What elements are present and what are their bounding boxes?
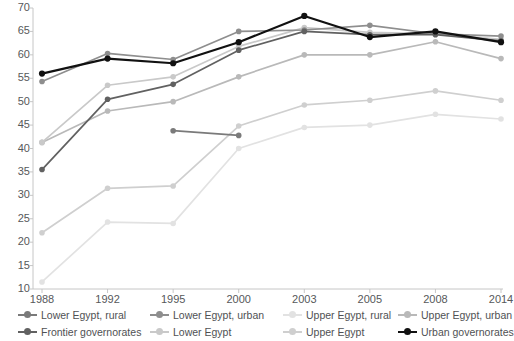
- y-axis-tick-label: 40: [4, 143, 30, 154]
- data-point: [170, 183, 176, 189]
- data-point: [105, 186, 111, 192]
- data-point: [433, 112, 439, 118]
- data-point: [105, 97, 111, 103]
- data-point: [498, 56, 504, 62]
- data-point: [301, 13, 307, 19]
- series-line: [42, 114, 501, 282]
- legend-label: Upper Egypt: [306, 326, 364, 338]
- data-point: [236, 47, 242, 53]
- y-axis-tick-label: 25: [4, 213, 30, 224]
- data-point: [367, 122, 373, 128]
- legend-label: Urban governorates: [421, 326, 514, 338]
- x-axis-tick-label: 2000: [226, 293, 250, 305]
- legend-marker-icon: [398, 310, 417, 320]
- y-axis-tick-label: 10: [4, 283, 30, 294]
- y-axis-tick-label: 15: [4, 260, 30, 271]
- y-axis: 10152025303540455055606570: [0, 0, 30, 300]
- data-point: [105, 108, 111, 114]
- x-axis: 19881992199520002003200520082014: [33, 291, 503, 307]
- legend-marker-icon: [283, 310, 302, 320]
- legend-label: Lower Egypt, rural: [41, 309, 126, 321]
- legend-item[interactable]: Lower Egypt, urban: [150, 307, 283, 323]
- x-axis-tick-label: 2003: [292, 293, 316, 305]
- legend-item[interactable]: Urban governorates: [398, 324, 511, 340]
- y-axis-tick-label: 20: [4, 236, 30, 247]
- series-line: [42, 25, 501, 81]
- data-point: [39, 79, 45, 85]
- y-axis-tick-label: 35: [4, 166, 30, 177]
- data-point: [236, 29, 242, 35]
- series-line: [42, 31, 501, 169]
- data-point: [236, 39, 242, 45]
- data-point: [367, 97, 373, 103]
- data-point: [367, 52, 373, 58]
- legend-marker-icon: [150, 310, 169, 320]
- legend-row: Frontier governoratesLower EgyptUpper Eg…: [0, 324, 511, 340]
- data-point: [301, 102, 307, 108]
- x-axis-tick-label: 1992: [95, 293, 119, 305]
- legend-item[interactable]: Upper Egypt, urban: [398, 307, 511, 323]
- legend-item[interactable]: Upper Egypt, rural: [283, 307, 398, 323]
- data-point: [236, 146, 242, 152]
- y-axis-tick-label: 50: [4, 96, 30, 107]
- y-axis-tick-label: 45: [4, 119, 30, 130]
- legend-item[interactable]: Upper Egypt: [283, 324, 398, 340]
- data-point: [39, 70, 45, 76]
- x-axis-tick-label: 2008: [423, 293, 447, 305]
- legend-label: Frontier governorates: [41, 326, 141, 338]
- data-point: [301, 29, 307, 35]
- series-line: [173, 131, 239, 136]
- data-point: [39, 279, 45, 285]
- y-axis-tick-label: 55: [4, 72, 30, 83]
- data-point: [236, 123, 242, 129]
- data-point: [236, 133, 242, 139]
- data-point: [170, 128, 176, 134]
- series-urban-governorates: [39, 13, 504, 77]
- legend-label: Upper Egypt, rural: [306, 309, 391, 321]
- legend-label: Lower Egypt: [173, 326, 231, 338]
- legend-item[interactable]: Lower Egypt, rural: [18, 307, 150, 323]
- data-point: [367, 34, 373, 40]
- data-point: [105, 51, 111, 57]
- chart-legend: Lower Egypt, ruralLower Egypt, urbanUppe…: [0, 306, 511, 341]
- y-axis-tick-label: 60: [4, 49, 30, 60]
- data-point: [39, 230, 45, 236]
- data-point: [170, 60, 176, 66]
- series-frontier-governorates: [39, 29, 504, 173]
- plot-svg: [33, 8, 503, 289]
- legend-label: Upper Egypt, urban: [421, 309, 512, 321]
- data-point: [170, 82, 176, 88]
- data-point: [301, 125, 307, 131]
- series-line: [42, 16, 501, 74]
- legend-marker-icon: [398, 327, 417, 337]
- data-point: [105, 219, 111, 225]
- x-axis-tick-label: 2005: [358, 293, 382, 305]
- data-point: [301, 52, 307, 58]
- y-axis-tick-label: 70: [4, 2, 30, 13]
- data-point: [39, 167, 45, 173]
- data-point: [367, 23, 373, 29]
- x-axis-tick-label: 1995: [161, 293, 185, 305]
- legend-marker-icon: [283, 327, 302, 337]
- data-point: [498, 97, 504, 103]
- x-axis-tick-label: 2014: [489, 293, 513, 305]
- data-point: [433, 39, 439, 45]
- y-axis-tick-label: 30: [4, 189, 30, 200]
- x-axis-tick-label: 1988: [30, 293, 54, 305]
- legend-item[interactable]: Frontier governorates: [18, 324, 150, 340]
- data-point: [432, 28, 438, 34]
- data-point: [498, 116, 504, 122]
- series-upper-egypt-rural: [39, 112, 504, 285]
- legend-item[interactable]: Lower Egypt: [150, 324, 283, 340]
- data-point: [39, 140, 45, 146]
- series-line: [42, 91, 501, 233]
- data-point: [236, 74, 242, 80]
- data-point: [170, 221, 176, 227]
- legend-marker-icon: [150, 327, 169, 337]
- data-point: [498, 39, 504, 45]
- plot-area: [33, 8, 503, 289]
- data-point: [105, 82, 111, 88]
- data-point: [433, 88, 439, 94]
- legend-marker-icon: [18, 310, 37, 320]
